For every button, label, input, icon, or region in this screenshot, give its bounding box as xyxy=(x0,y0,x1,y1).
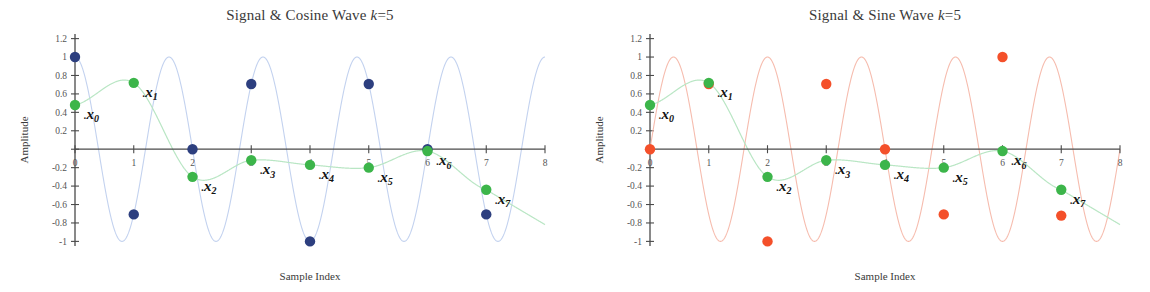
sample-annotation-x1: .x1 xyxy=(718,84,733,103)
sample-annotation-x4: .x4 xyxy=(894,166,909,185)
y-tick-label: 0.6 xyxy=(55,89,67,99)
figure-row: Signal & Cosine Wave k=51.210.80.60.40.2… xyxy=(0,0,1150,292)
cosine-sample-dot xyxy=(246,79,256,89)
sample-annotation-x0: .x0 xyxy=(84,106,99,125)
y-tick-label: 0.8 xyxy=(55,71,67,81)
y-axis-label: Amplitude xyxy=(593,116,605,163)
sample-annotation-x3: .x3 xyxy=(835,161,850,180)
y-tick-label: -0.4 xyxy=(627,181,642,191)
y-tick-label: -0.2 xyxy=(52,163,67,173)
signal-sample-dot xyxy=(880,160,890,170)
sample-annotation-x2: .x2 xyxy=(777,178,792,197)
x-tick-label: 0 xyxy=(648,158,653,168)
y-tick-label: -1 xyxy=(59,237,67,247)
cosine-chart-panel: Signal & Cosine Wave k=51.210.80.60.40.2… xyxy=(0,0,575,292)
chart-title: Signal & Cosine Wave k=5 xyxy=(226,7,394,23)
y-tick-label: 0.2 xyxy=(55,126,67,136)
y-tick-label: 0.4 xyxy=(55,108,67,118)
x-axis-label: Sample Index xyxy=(280,270,341,282)
sample-annotation-x3: .x3 xyxy=(260,161,275,180)
x-axis-label: Sample Index xyxy=(855,270,916,282)
y-tick-label: -0.8 xyxy=(52,218,67,228)
signal-sample-dot xyxy=(821,155,831,165)
x-tick-label: 7 xyxy=(1059,158,1064,168)
cosine-sample-dot xyxy=(364,79,374,89)
sample-annotation-x6: .x6 xyxy=(437,152,452,171)
y-tick-label: 1 xyxy=(637,52,642,62)
signal-sample-dot xyxy=(939,162,949,172)
cosine-panel: Signal & Cosine Wave k=51.210.80.60.40.2… xyxy=(0,0,575,292)
sine-sample-dot xyxy=(939,209,949,219)
y-tick-label: 1.2 xyxy=(55,34,67,44)
x-tick-label: 6 xyxy=(425,158,430,168)
y-axis-label: Amplitude xyxy=(18,116,30,163)
x-tick-label: 1 xyxy=(131,158,136,168)
cosine-sample-dot xyxy=(129,209,139,219)
signal-sample-dot xyxy=(305,160,315,170)
signal-sample-dot xyxy=(1056,185,1066,195)
signal-sample-dot xyxy=(422,146,432,156)
y-tick-label: 0.8 xyxy=(630,71,642,81)
x-tick-label: 6 xyxy=(1000,158,1005,168)
signal-sample-dot xyxy=(704,78,714,88)
x-tick-label: 1 xyxy=(706,158,711,168)
sine-chart-panel: Signal & Sine Wave k=51.210.80.60.40.2-0… xyxy=(575,0,1150,292)
cosine-sample-dot xyxy=(305,236,315,246)
y-tick-label: 0.6 xyxy=(630,89,642,99)
sample-annotation-x0: .x0 xyxy=(659,106,674,125)
y-tick-label: -0.6 xyxy=(52,200,67,210)
signal-sample-dot xyxy=(645,100,655,110)
x-tick-label: 8 xyxy=(543,158,548,168)
signal-sample-dot xyxy=(481,185,491,195)
sine-sample-dot xyxy=(997,52,1007,62)
y-tick-label: 1.2 xyxy=(630,34,642,44)
sample-annotation-x5: .x5 xyxy=(378,169,393,188)
y-tick-label: -1 xyxy=(634,237,642,247)
x-tick-label: 2 xyxy=(765,158,770,168)
y-tick-label: -0.4 xyxy=(52,181,67,191)
sample-annotation-x5: .x5 xyxy=(953,169,968,188)
chart-title: Signal & Sine Wave k=5 xyxy=(809,7,961,23)
signal-sample-dot xyxy=(129,78,139,88)
y-tick-label: -0.2 xyxy=(627,163,642,173)
sine-sample-dot xyxy=(762,236,772,246)
signal-sample-dot xyxy=(364,162,374,172)
y-tick-label: 0.4 xyxy=(630,108,642,118)
signal-sample-dot xyxy=(762,172,772,182)
y-tick-label: -0.6 xyxy=(627,200,642,210)
sine-sample-dot xyxy=(1056,210,1066,220)
signal-sample-dot xyxy=(997,146,1007,156)
sine-sample-dot xyxy=(645,144,655,154)
sine-sample-dot xyxy=(880,144,890,154)
x-tick-label: 7 xyxy=(484,158,489,168)
sample-annotation-x7: .x7 xyxy=(1070,191,1086,210)
sine-panel: Signal & Sine Wave k=51.210.80.60.40.2-0… xyxy=(575,0,1150,292)
sample-annotation-x7: .x7 xyxy=(495,191,511,210)
y-tick-label: -0.8 xyxy=(627,218,642,228)
sample-annotation-x6: .x6 xyxy=(1012,152,1027,171)
x-tick-label: 8 xyxy=(1118,158,1123,168)
x-tick-label: 0 xyxy=(73,158,78,168)
cosine-sample-dot xyxy=(481,209,491,219)
y-tick-label: 1 xyxy=(62,52,67,62)
y-tick-label: 0.2 xyxy=(630,126,642,136)
signal-sample-dot xyxy=(187,172,197,182)
cosine-sample-dot xyxy=(187,144,197,154)
sample-annotation-x2: .x2 xyxy=(202,178,217,197)
cosine-sample-dot xyxy=(70,52,80,62)
sample-annotation-x1: .x1 xyxy=(143,84,158,103)
signal-sample-dot xyxy=(246,155,256,165)
x-tick-label: 2 xyxy=(190,158,195,168)
signal-sample-dot xyxy=(70,100,80,110)
sine-sample-dot xyxy=(821,79,831,89)
sample-annotation-x4: .x4 xyxy=(319,166,334,185)
